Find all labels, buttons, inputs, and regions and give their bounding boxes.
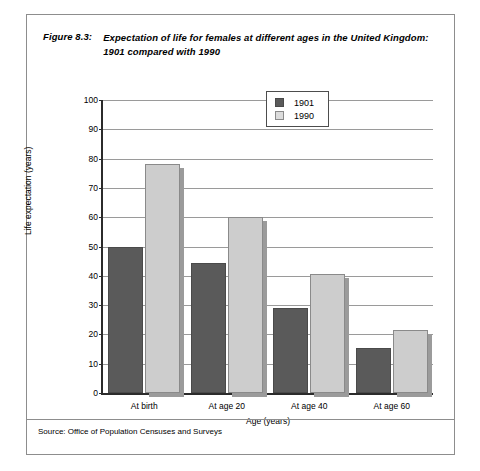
bar-group	[351, 100, 434, 393]
figure-caption: Figure 8.3: Expectation of life for fema…	[43, 31, 443, 58]
y-tick-mark	[99, 393, 103, 394]
y-tick-label: 100	[84, 95, 98, 105]
bar-1901-at-birth	[108, 247, 143, 394]
legend-item: 1901	[275, 96, 314, 109]
bar-1901-at-age-60	[356, 348, 391, 393]
bar-1901-at-age-20	[191, 263, 226, 393]
chart-legend: 1901 1990	[266, 91, 329, 127]
bar-group	[268, 100, 351, 393]
x-tick-label: At age 20	[209, 401, 245, 411]
y-axis-title: Life expectation (years)	[23, 147, 33, 235]
x-tick-label: At birth	[131, 401, 158, 411]
y-tick-label: 60	[89, 212, 98, 222]
y-tick-label: 0	[93, 388, 98, 398]
plot-area: Age (years) 0102030405060708090100At bir…	[101, 100, 433, 395]
y-tick-label: 80	[89, 154, 98, 164]
bar-1990-at-age-20	[228, 217, 263, 393]
bar-1990-at-age-60	[393, 330, 428, 393]
bar-group	[103, 100, 186, 393]
y-tick-label: 50	[89, 242, 98, 252]
source-divider	[27, 419, 454, 420]
x-tick-label: At age 60	[374, 401, 410, 411]
y-tick-label: 40	[89, 271, 98, 281]
y-tick-label: 70	[89, 183, 98, 193]
y-tick-label: 90	[89, 124, 98, 134]
bar-1901-at-age-40	[273, 308, 308, 393]
source-note: Source: Office of Population Censuses an…	[38, 427, 222, 436]
chart-region: Life expectation (years) Age (years) 010…	[43, 75, 441, 420]
y-tick-label: 10	[89, 359, 98, 369]
legend-swatch-1901	[275, 98, 284, 107]
y-tick-label: 20	[89, 329, 98, 339]
y-tick-label: 30	[89, 300, 98, 310]
figure-frame: Figure 8.3: Expectation of life for fema…	[26, 14, 455, 455]
legend-label-1990: 1990	[294, 111, 314, 121]
bar-group	[186, 100, 269, 393]
legend-swatch-1990	[275, 111, 284, 120]
figure-number-label: Figure 8.3:	[43, 31, 92, 42]
bar-1990-at-age-40	[310, 274, 345, 393]
bar-1990-at-birth	[145, 164, 180, 393]
legend-label-1901: 1901	[294, 98, 314, 108]
x-axis-title: Age (years)	[246, 416, 290, 426]
figure-title: Expectation of life for females at diffe…	[103, 31, 443, 58]
legend-item: 1990	[275, 109, 314, 122]
x-tick-label: At age 40	[291, 401, 327, 411]
